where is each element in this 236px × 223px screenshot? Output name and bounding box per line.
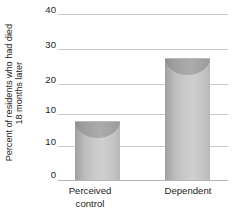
bar-dependent[interactable] xyxy=(165,58,210,180)
bar-top-edge xyxy=(75,121,120,122)
bar-perceived-control[interactable] xyxy=(75,121,120,180)
y-axis-tick-labels: 40 30 20 10 10 0 xyxy=(30,0,56,181)
y-tick-label-10-upper: 10 xyxy=(32,105,56,115)
bar-top-edge xyxy=(165,58,210,59)
plot-area xyxy=(58,0,228,181)
y-tick-label-10-lower: 10 xyxy=(32,137,56,147)
y-axis-title-line-2: 18 months later xyxy=(15,62,24,125)
axis-baseline xyxy=(58,180,228,181)
bar-cap-icon xyxy=(75,121,120,138)
x-axis-label-perceived-control: Perceived control xyxy=(53,185,127,210)
y-tick-label-40: 40 xyxy=(32,5,56,15)
gridline-30 xyxy=(58,49,228,50)
bar-chart: Percent of residents who had died 18 mon… xyxy=(0,0,236,223)
y-tick-label-30: 30 xyxy=(32,40,56,50)
y-tick-label-20: 20 xyxy=(32,75,56,85)
x-axis-label-dependent: Dependent xyxy=(147,185,229,198)
bar-cap-icon xyxy=(165,58,210,75)
y-axis-title: Percent of residents who had died 18 mon… xyxy=(0,0,30,186)
gridline-40 xyxy=(58,14,228,15)
y-tick-label-0: 0 xyxy=(32,170,56,180)
x-axis-label-line-2: control xyxy=(53,198,127,211)
y-axis-title-line-1: Percent of residents who had died xyxy=(5,24,14,161)
x-axis-label-line-1: Perceived xyxy=(53,185,127,198)
x-axis-label-line-1: Dependent xyxy=(147,185,229,198)
